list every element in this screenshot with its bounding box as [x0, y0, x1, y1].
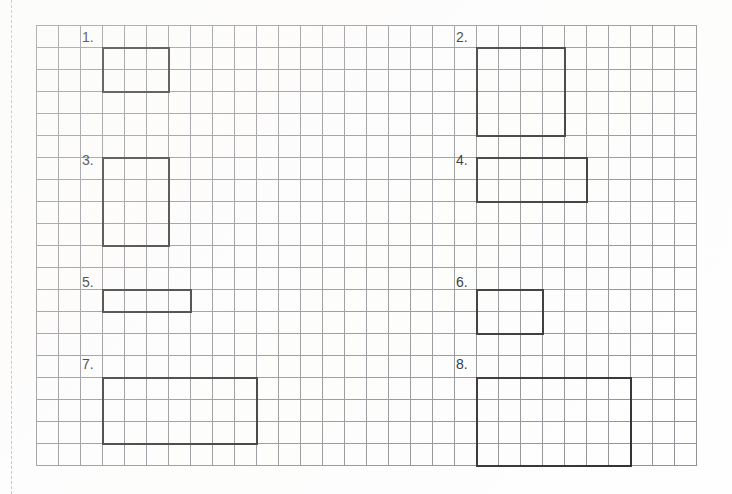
margin-dashed-line [11, 0, 12, 494]
rectangle-6 [476, 289, 544, 335]
item-number-label-8: 8. [456, 357, 468, 371]
worksheet-page: 1.2.3.4.5.6.7.8. [0, 0, 732, 494]
item-number-label-7: 7. [82, 357, 94, 371]
item-number-label-3: 3. [82, 153, 94, 167]
item-number-label-6: 6. [456, 275, 468, 289]
rectangle-2 [476, 47, 566, 137]
rectangle-7 [102, 377, 258, 445]
item-number-label-1: 1. [82, 30, 94, 44]
rectangle-8 [476, 377, 632, 467]
rectangle-5 [102, 289, 192, 313]
item-number-label-5: 5. [82, 275, 94, 289]
rectangle-3 [102, 157, 170, 247]
item-number-label-4: 4. [456, 153, 468, 167]
rectangle-4 [476, 157, 588, 203]
rectangle-1 [102, 47, 170, 93]
item-number-label-2: 2. [456, 30, 468, 44]
